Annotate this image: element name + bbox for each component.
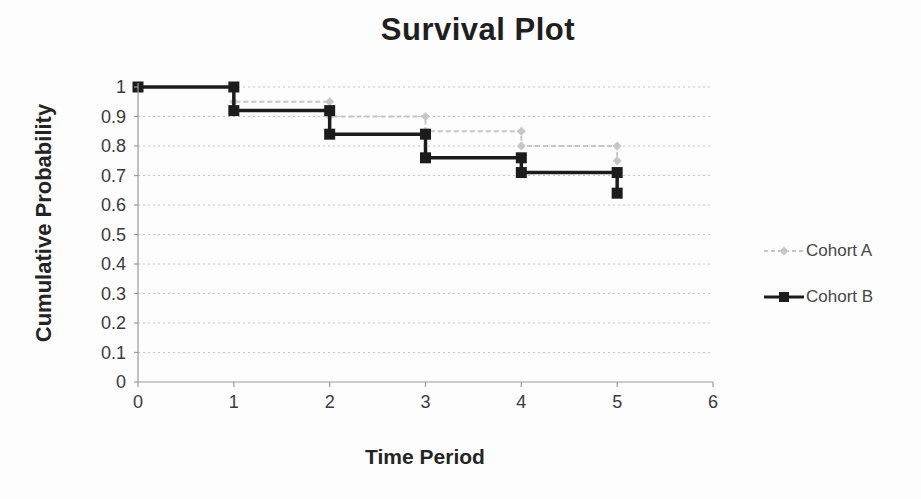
y-tick-label: 0.4 xyxy=(66,254,126,274)
legend-label-cohort-a: Cohort A xyxy=(806,241,872,261)
y-tick-label: 0.6 xyxy=(66,195,126,215)
y-tick-label: 0.8 xyxy=(66,136,126,156)
x-tick-label: 1 xyxy=(214,392,254,412)
y-tick-label: 0.7 xyxy=(66,166,126,186)
x-tick-label: 3 xyxy=(406,392,446,412)
y-tick-label: 0.1 xyxy=(66,343,126,363)
y-tick-label: 0.9 xyxy=(66,107,126,127)
y-tick-label: 0 xyxy=(66,372,126,392)
cohort-b-line-marker-icon xyxy=(764,290,804,304)
x-tick-label: 2 xyxy=(310,392,350,412)
y-tick-label: 0.3 xyxy=(66,284,126,304)
legend-item-cohort-b: Cohort B xyxy=(764,286,914,308)
x-tick-label: 6 xyxy=(693,392,733,412)
legend-label-cohort-b: Cohort B xyxy=(806,287,873,307)
survival-plot-chart: Survival Plot Cumulative Probability 10.… xyxy=(0,0,921,499)
x-tick-label: 5 xyxy=(597,392,637,412)
x-tick-label: 0 xyxy=(118,392,158,412)
x-tick-label: 4 xyxy=(501,392,541,412)
cohort-a-line-marker-icon xyxy=(764,244,804,258)
y-tick-label: 0.2 xyxy=(66,313,126,333)
legend: Cohort A Cohort B xyxy=(764,240,914,332)
legend-item-cohort-a: Cohort A xyxy=(764,240,914,262)
y-tick-label: 1 xyxy=(66,77,126,97)
y-tick-label: 0.5 xyxy=(66,225,126,245)
x-axis-title: Time Period xyxy=(275,445,575,469)
